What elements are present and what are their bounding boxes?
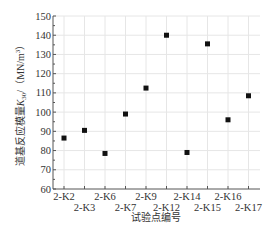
data-point-2-k2	[62, 136, 67, 141]
data-point-2-k14	[185, 150, 190, 155]
y-axis-title-unit-close: ）	[15, 40, 26, 50]
x-tick-label: 2-K17	[235, 202, 262, 213]
data-point-2-k9	[144, 86, 149, 91]
y-tick-label: 110	[36, 87, 51, 98]
y-tick-label: 80	[41, 145, 52, 156]
data-point-2-k12	[164, 33, 169, 38]
y-tick-label: 150	[35, 11, 51, 22]
y-tick-label: 140	[35, 30, 51, 41]
y-tick-label: 120	[35, 68, 51, 79]
x-axis-ticks: 2-K22-K32-K62-K72-K92-K122-K142-K152-K16…	[53, 186, 262, 213]
x-tick-label: 2-K2	[53, 191, 75, 202]
data-point-2-k15	[205, 41, 210, 46]
data-point-2-k3	[82, 128, 87, 133]
y-tick-label: 70	[41, 164, 52, 175]
x-tick-label: 2-K3	[74, 202, 96, 213]
x-tick-label: 2-K16	[215, 191, 242, 202]
y-tick-label: 100	[35, 107, 51, 118]
grid-lines	[53, 16, 260, 189]
x-tick-label: 2-K9	[135, 191, 157, 202]
y-tick-label: 130	[35, 49, 51, 60]
data-points	[62, 33, 252, 156]
data-point-2-k7	[123, 112, 128, 117]
y-tick-label: 60	[41, 184, 52, 195]
scatter-chart: 60708090100110120130140150 2-K22-K32-K62…	[0, 0, 270, 229]
data-point-2-k6	[103, 151, 108, 156]
y-axis-title: 道基反应模量K30/（MN/m3）	[14, 40, 28, 167]
y-tick-label: 90	[41, 126, 52, 137]
x-axis-title: 试验点编号	[131, 211, 181, 223]
data-point-2-k17	[246, 93, 251, 98]
y-axis-title-main: 道基反应模量	[14, 106, 26, 166]
x-tick-label: 2-K15	[194, 202, 221, 213]
data-point-2-k16	[226, 117, 231, 122]
x-tick-label: 2-K6	[94, 191, 116, 202]
y-axis-title-unit: /（MN/m	[15, 53, 26, 93]
x-tick-label: 2-K14	[174, 191, 202, 202]
